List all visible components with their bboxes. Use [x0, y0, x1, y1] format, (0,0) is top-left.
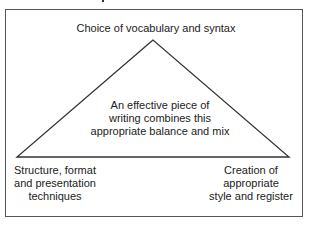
bottom-left-vertex-label: Structure, format and presentation techn…	[10, 164, 100, 203]
top-vertex-label: Choice of vocabulary and syntax	[0, 22, 312, 35]
center-label: An effective piece of writing combines t…	[80, 99, 240, 138]
bottom-left-label-line: techniques	[10, 190, 100, 203]
center-label-line: An effective piece of	[80, 99, 240, 112]
center-label-line: writing combines this	[80, 112, 240, 125]
bottom-left-label-line: Structure, format	[10, 164, 100, 177]
center-label-line: appropriate balance and mix	[80, 125, 240, 138]
bottom-right-label-line: Creation of	[205, 164, 297, 177]
bottom-right-label-line: style and register	[205, 190, 297, 203]
bottom-right-label-line: appropriate	[205, 177, 297, 190]
bottom-left-label-line: and presentation	[10, 177, 100, 190]
bottom-right-vertex-label: Creation of appropriate style and regist…	[205, 164, 297, 203]
